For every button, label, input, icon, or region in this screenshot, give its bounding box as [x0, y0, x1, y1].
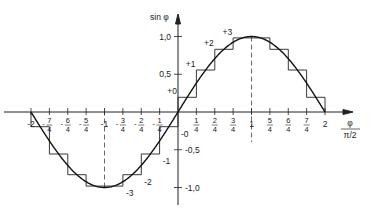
x-tick-sign: - [61, 119, 64, 128]
x-tick-sign: - [134, 119, 137, 128]
x-axis-label-numerator: φ [347, 118, 353, 128]
x-tick-denominator: 4 [286, 125, 290, 134]
y-axis-arrow-icon [176, 14, 181, 24]
x-tick-denominator: 4 [47, 125, 51, 134]
x-tick-sign: - [79, 119, 82, 128]
step-label: -2 [144, 177, 152, 187]
x-tick-numerator: 6 [66, 116, 70, 125]
step-label: +1 [186, 59, 196, 69]
x-tick-numerator: 5 [268, 116, 272, 125]
x-axis-label-denominator: π/2 [344, 130, 357, 140]
step-label: +0 [167, 86, 177, 96]
x-tick-numerator: 1 [158, 116, 162, 125]
x-tick-denominator: 4 [121, 125, 125, 134]
step-label: -0 [181, 129, 189, 139]
y-tick-label: -0,5 [185, 145, 200, 155]
x-tick-label: 1 [249, 119, 254, 129]
x-tick-denominator: 4 [158, 125, 162, 134]
x-tick-denominator: 4 [213, 125, 217, 134]
step-label: -1 [163, 156, 171, 166]
x-tick-denominator: 4 [66, 125, 70, 134]
x-tick-denominator: 4 [194, 125, 198, 134]
x-tick-denominator: 4 [305, 125, 309, 134]
axes [4, 14, 353, 205]
x-tick-denominator: 4 [268, 125, 272, 134]
sine-quantization-diagram: -2-74-64-54-1-34-24-14142434154647421,00… [0, 0, 378, 216]
y-tick-label: 1,0 [159, 32, 171, 42]
x-tick-label: -2 [27, 119, 35, 129]
x-tick-numerator: 2 [139, 116, 143, 125]
y-axis-label: sin φ [150, 12, 169, 22]
x-axis-arrow-icon [343, 110, 353, 115]
x-tick-sign: - [116, 119, 119, 128]
x-tick-label: -1 [101, 119, 109, 129]
x-tick-numerator: 6 [286, 116, 290, 125]
step-label: +3 [222, 27, 232, 37]
x-tick-numerator: 7 [47, 116, 51, 125]
x-tick-numerator: 1 [194, 116, 198, 125]
x-tick-sign: - [152, 119, 155, 128]
x-tick-label: 2 [323, 119, 328, 129]
x-tick-numerator: 5 [84, 116, 88, 125]
x-tick-denominator: 4 [84, 125, 88, 134]
x-tick-numerator: 3 [231, 116, 235, 125]
x-tick-numerator: 3 [121, 116, 125, 125]
y-tick-label: -1,0 [185, 183, 200, 193]
x-tick-numerator: 2 [213, 116, 217, 125]
x-tick-denominator: 4 [139, 125, 143, 134]
x-tick-numerator: 7 [305, 116, 309, 125]
y-tick-label: 0,5 [159, 69, 171, 79]
step-label: -3 [126, 188, 134, 198]
x-tick-denominator: 4 [231, 125, 235, 134]
step-label: +2 [204, 38, 214, 48]
